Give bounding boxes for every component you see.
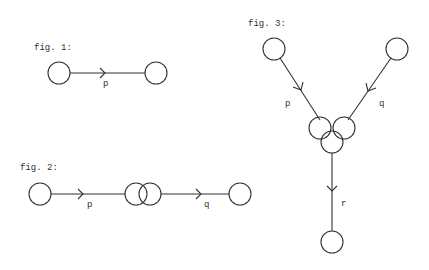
diagram-canvas: fig. 1: p fig. 2: p q fig. 3: p q [0, 0, 429, 270]
edge-label-q: q [204, 200, 209, 210]
node-circle [145, 62, 167, 84]
merged-node-circle-bottom [321, 131, 343, 153]
edge-label-p: p [285, 99, 290, 109]
merged-node-circle-right [139, 183, 161, 205]
figure-2-label: fig. 2: [20, 163, 58, 173]
edge-line [280, 58, 320, 120]
edge-label-p: p [87, 200, 92, 210]
merged-node-circle-left [125, 183, 147, 205]
edge-label-q: q [379, 99, 384, 109]
figure-1: fig. 1: p [34, 43, 167, 89]
node-circle [321, 231, 343, 253]
edge-label-p: p [103, 79, 108, 89]
merged-node-circle-right [333, 117, 355, 139]
figure-1-label: fig. 1: [34, 43, 72, 53]
node-circle [48, 62, 70, 84]
node-circle [29, 183, 51, 205]
figure-2: fig. 2: p q [20, 163, 251, 210]
node-circle [386, 38, 408, 60]
figure-3: fig. 3: p q r [248, 19, 408, 253]
merged-node-circle-left [309, 117, 331, 139]
figure-3-label: fig. 3: [248, 19, 286, 29]
node-circle [263, 38, 285, 60]
edge-label-r: r [341, 199, 346, 209]
node-circle [229, 183, 251, 205]
edge-line [348, 58, 391, 120]
